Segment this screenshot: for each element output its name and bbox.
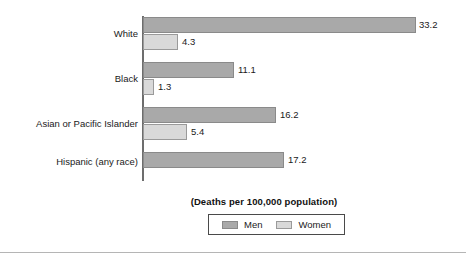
bar-women-white[interactable]: [143, 34, 178, 50]
plot-area: White 33.2 4.3 Black 11.1 1.3 Asian or P…: [0, 0, 466, 186]
legend-swatch-women-icon: [276, 221, 292, 229]
value-label-men-black: 11.1: [238, 64, 256, 75]
chart-legend: Men Women: [208, 214, 345, 235]
chart-subtitle-text: (Deaths per 100,000 population): [191, 196, 338, 207]
category-label-white: White: [114, 28, 138, 39]
legend-swatch-men-icon: [222, 221, 238, 229]
category-label-asian-or-pacific-islander: Asian or Pacific Islander: [36, 118, 138, 129]
value-label-women-asian-or-pacific-islander: 5.4: [191, 126, 204, 137]
bar-chart: White 33.2 4.3 Black 11.1 1.3 Asian or P…: [0, 0, 466, 261]
category-label-hispanic-any-race: Hispanic (any race): [56, 156, 138, 167]
bar-women-black[interactable]: [143, 79, 154, 95]
bar-men-asian-or-pacific-islander[interactable]: [143, 107, 276, 123]
category-label-black: Black: [115, 73, 138, 84]
bar-men-white[interactable]: [143, 17, 416, 33]
value-label-men-hispanic-any-race: 17.2: [288, 154, 307, 165]
value-label-women-white: 4.3: [182, 36, 195, 47]
chart-subtitle: (Deaths per 100,000 population): [0, 196, 466, 207]
value-label-men-white: 33.2: [419, 19, 438, 30]
value-label-women-black: 1.3: [158, 81, 171, 92]
bar-men-hispanic-any-race[interactable]: [143, 152, 284, 168]
legend-item-women[interactable]: Women: [276, 219, 331, 230]
legend-label-women: Women: [298, 219, 331, 230]
legend-item-men[interactable]: Men: [222, 219, 262, 230]
page-divider-rule: [0, 252, 466, 253]
value-label-men-asian-or-pacific-islander: 16.2: [280, 109, 299, 120]
bar-men-black[interactable]: [143, 62, 234, 78]
bar-women-asian-or-pacific-islander[interactable]: [143, 124, 187, 140]
legend-label-men: Men: [244, 219, 262, 230]
